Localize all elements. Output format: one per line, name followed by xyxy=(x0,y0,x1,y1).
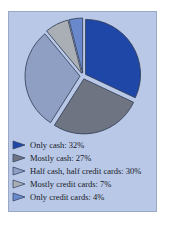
triangle-marker-icon xyxy=(12,192,26,202)
legend-label: Only credit cards: 4% xyxy=(30,192,104,202)
triangle-marker-icon xyxy=(12,140,26,150)
legend-label: Mostly credit cards: 7% xyxy=(30,179,111,189)
legend: Only cash: 32% Mostly cash: 27% Half cas… xyxy=(12,138,141,203)
triangle-marker-icon xyxy=(12,179,26,189)
legend-item-only-credit: Only credit cards: 4% xyxy=(12,190,141,203)
legend-item-half-cash: Half cash, half credit cards: 30% xyxy=(12,164,141,177)
legend-item-mostly-credit: Mostly credit cards: 7% xyxy=(12,177,141,190)
legend-item-mostly-cash: Mostly cash: 27% xyxy=(12,151,141,164)
pie-chart xyxy=(0,0,169,140)
triangle-marker-icon xyxy=(12,166,26,176)
triangle-marker-icon xyxy=(12,153,26,163)
legend-label: Half cash, half credit cards: 30% xyxy=(30,166,141,176)
legend-item-only-cash: Only cash: 32% xyxy=(12,138,141,151)
legend-label: Only cash: 32% xyxy=(30,140,84,150)
legend-label: Mostly cash: 27% xyxy=(30,153,91,163)
